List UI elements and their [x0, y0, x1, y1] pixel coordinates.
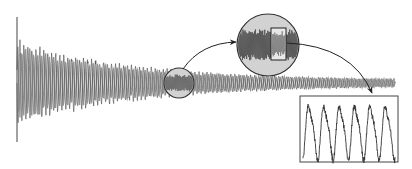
- arrow-to-large-magnifier: [183, 42, 236, 69]
- diagram-svg: [0, 0, 412, 169]
- small-magnifier: [164, 68, 194, 98]
- detail-box: [300, 96, 398, 163]
- diagram-canvas: [0, 0, 412, 169]
- large-magnifier: [237, 14, 299, 76]
